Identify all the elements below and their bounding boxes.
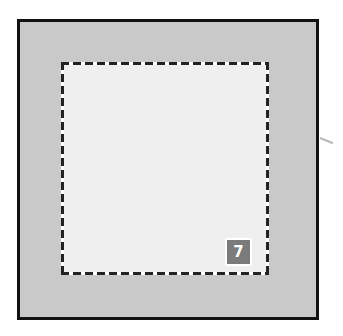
number-badge: 7 xyxy=(227,240,250,264)
pointer-mark xyxy=(320,137,334,144)
